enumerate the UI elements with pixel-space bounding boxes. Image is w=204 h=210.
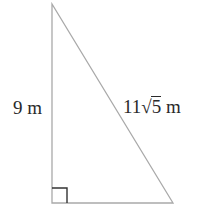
hypotenuse-coefficient: 11: [123, 96, 141, 117]
hypotenuse-radicand: 5: [151, 96, 162, 116]
hypotenuse-length-label: 11√5 m: [123, 96, 181, 116]
left-side-length-label: 9 m: [13, 98, 42, 117]
left-side-unit: m: [27, 97, 42, 118]
hypotenuse-unit: m: [166, 96, 181, 117]
right-angle-marker: [52, 188, 67, 203]
square-root-expression: √5: [141, 96, 161, 116]
left-side-value: 9: [13, 97, 23, 118]
